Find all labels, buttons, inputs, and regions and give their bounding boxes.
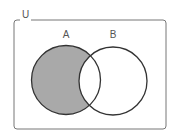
set-b-label: B — [110, 29, 117, 40]
set-a-label: A — [63, 29, 70, 40]
universe-label: U — [22, 9, 29, 20]
venn-diagram: U A B — [0, 0, 175, 136]
